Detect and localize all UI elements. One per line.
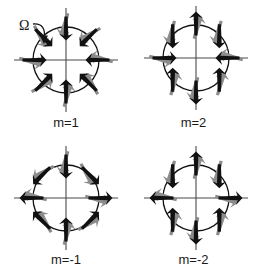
arrow-group-4 [57, 218, 77, 247]
arrow-group-5 [28, 207, 57, 236]
arrow-3 [212, 208, 226, 232]
arrow-1 [212, 164, 226, 188]
arrow-6 [22, 53, 46, 67]
arrow-group-5 [28, 69, 57, 98]
arrow-group-7 [161, 159, 181, 188]
arrow-group-6 [17, 51, 46, 71]
arrow-5 [166, 208, 180, 232]
arrow-6 [152, 51, 176, 65]
arrow-group-5 [164, 68, 184, 97]
arrow-group-6 [147, 49, 176, 69]
arrow-group-0 [54, 149, 74, 178]
arrow-7 [166, 24, 180, 48]
arrow-2 [216, 51, 240, 65]
arrow-group-7 [161, 19, 181, 48]
arrow-group-3 [211, 208, 231, 237]
arrow-group-1 [208, 159, 228, 188]
arrow-group-4 [57, 80, 77, 109]
arrow-3 [212, 68, 226, 92]
arrow-4 [59, 80, 73, 104]
panel-mm1 [14, 146, 118, 250]
arrow-4 [189, 220, 203, 244]
arrow-4 [59, 218, 73, 242]
arrow-group-3 [75, 69, 104, 98]
arrow-group-1 [75, 160, 104, 189]
arrow-group-3 [211, 68, 231, 97]
arrow-group-2 [216, 46, 245, 66]
arrow-group-1 [75, 22, 104, 51]
arrow-group-3 [75, 207, 104, 236]
panel-mm2 [144, 146, 248, 250]
arrow-5 [166, 68, 180, 92]
curved-arrow-icon [31, 22, 65, 52]
arrow-2 [86, 53, 110, 67]
arrow-1 [212, 24, 226, 48]
panel-m1 [14, 8, 118, 112]
panel-label-m-2: m=-2 [130, 252, 257, 267]
arrow-6 [20, 191, 44, 205]
arrow-group-1 [208, 19, 228, 48]
arrow-2 [88, 191, 112, 205]
panel-label-m1: m=1 [0, 115, 132, 130]
arrow-6 [150, 191, 174, 205]
arrow-4 [189, 80, 203, 104]
arrow-group-5 [164, 208, 184, 237]
panel-label-m-1: m=-1 [0, 252, 132, 267]
arrow-0 [189, 11, 203, 35]
arrow-0 [189, 152, 203, 176]
arrow-0 [59, 154, 73, 178]
vortex-modes-figure: Ω m=1 m=2 m=-1 m=-2 [0, 0, 257, 278]
arrow-group-7 [28, 160, 57, 189]
panel-m2 [144, 6, 248, 110]
omega-rotation-symbol: Ω [19, 18, 29, 34]
arrow-2 [218, 191, 242, 205]
arrow-group-2 [86, 48, 115, 68]
panel-label-m2: m=2 [130, 115, 257, 130]
arrow-7 [166, 164, 180, 188]
